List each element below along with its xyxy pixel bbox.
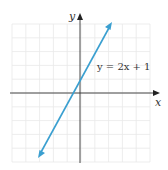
x-axis: x <box>10 90 162 109</box>
y-axis-label: y <box>68 10 76 23</box>
line-arrow-top-icon <box>105 22 112 30</box>
line-arrow-bottom-icon <box>38 150 45 158</box>
function-line <box>38 22 112 158</box>
x-axis-label: x <box>155 96 162 109</box>
equation-label: y = 2x + 1 <box>96 61 151 72</box>
line-graph: x y y = 2x + 1 <box>0 0 168 170</box>
y-axis-arrow-icon <box>77 13 83 20</box>
